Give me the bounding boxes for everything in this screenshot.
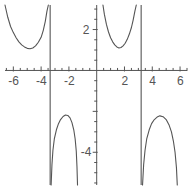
curve-upper-left-branch	[5, 5, 48, 49]
y-tick-label-2: 2	[83, 24, 90, 36]
x-tick-label-6: 6	[177, 75, 184, 87]
curve-upper-right-branch	[103, 5, 136, 48]
x-tick-label-2: 2	[121, 75, 128, 87]
x-tick-label--2: -2	[64, 75, 75, 87]
curve-lower-middle-branch	[51, 115, 77, 185]
curve-lower-right-branch	[143, 116, 178, 185]
x-tick-label--4: -4	[36, 75, 47, 87]
x-tick-label-4: 4	[149, 75, 156, 87]
x-tick-label--6: -6	[8, 75, 19, 87]
graph-figure: -6 -4 -2 2 4 6 2 -4	[0, 0, 192, 190]
plot-canvas	[0, 0, 192, 190]
y-tick-label--4: -4	[81, 146, 92, 158]
